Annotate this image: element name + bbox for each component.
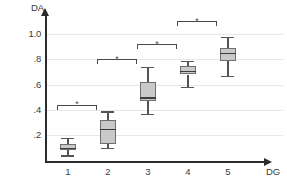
cap-lower [101,148,114,149]
box-iqr [100,120,116,144]
cap-upper [181,61,194,62]
median-line [60,148,76,149]
x-axis-line [45,161,266,163]
x-tick-label: 1 [53,166,83,177]
cap-upper [221,37,234,38]
y-axis-line [45,14,47,162]
x-tick-label: 2 [93,166,123,177]
significance-asterisk: * [137,41,177,47]
gridline [45,110,283,111]
whisker-upper [227,37,228,48]
gridline [45,34,283,35]
y-tick-label: .6 [1,79,41,90]
whisker-upper [147,67,148,82]
x-axis-arrow-icon [264,158,272,166]
x-tick-label: 5 [213,166,243,177]
y-tick-label: .8 [1,53,41,64]
cap-upper [101,111,114,112]
cap-lower [61,155,74,156]
significance-asterisk: * [57,101,97,107]
gridline [45,85,283,86]
x-tick-label: 3 [133,166,163,177]
x-axis-title: DG [266,166,280,177]
y-tick-label: 1.0 [1,28,41,39]
y-tick-label: .2 [1,129,41,140]
y-axis-title: DA [31,2,44,13]
median-line [100,129,116,130]
cap-upper [61,138,74,139]
median-line [180,71,196,72]
cap-lower [181,87,194,88]
cap-lower [221,76,234,77]
x-tick-label: 4 [173,166,203,177]
whisker-lower [147,101,148,114]
box-plot-chart: DA DG 1.0.8.6.4.2 12345 **** [0,0,287,186]
gridline [45,135,283,136]
y-tick-label: .4 [1,104,41,115]
median-line [140,97,156,98]
whisker-lower [227,61,228,76]
significance-asterisk: * [177,18,217,24]
gridline [45,59,283,60]
median-line [220,53,236,54]
significance-asterisk: * [97,56,137,62]
cap-upper [141,67,154,68]
whisker-lower [187,75,188,88]
cap-lower [141,114,154,115]
